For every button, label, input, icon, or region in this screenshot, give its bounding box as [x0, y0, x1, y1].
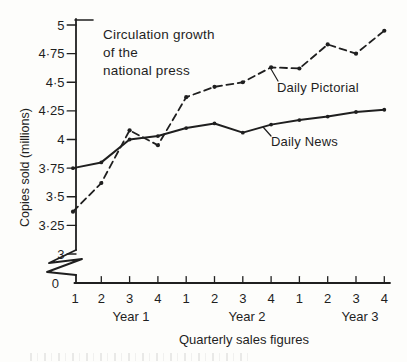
daily-pictorial-point — [156, 143, 160, 147]
daily-pictorial-series-label: Daily Pictorial — [277, 80, 359, 95]
y-tick-label: 5 — [57, 18, 64, 33]
cut-off-caption-fragment — [30, 353, 248, 361]
daily-pictorial-point — [326, 42, 330, 46]
y-axis-break-mark — [47, 250, 82, 275]
daily-pictorial-point — [297, 66, 301, 70]
y-origin-label: 0 — [52, 276, 59, 291]
y-tick-label: 3 — [57, 247, 64, 262]
daily-pictorial-point — [128, 128, 132, 132]
daily-news-point — [156, 134, 160, 138]
daily-news-point — [99, 161, 103, 165]
daily-news-point — [184, 126, 188, 130]
chart-title-line-1: Circulation growth — [103, 26, 215, 44]
scanned-chart-page: 54·754·54·2543·753·53·2530123412341234 C… — [0, 0, 407, 362]
y-tick-label: 3·5 — [46, 189, 65, 204]
year-1-label: Year 1 — [96, 309, 166, 324]
x-tick-label: 3 — [239, 291, 246, 306]
chart-title: Circulation growth of the national press — [103, 26, 215, 80]
x-tick-label: 3 — [126, 291, 133, 306]
x-tick-label: 2 — [324, 291, 331, 306]
chart-title-line-3: national press — [103, 62, 215, 80]
x-tick-label: 2 — [211, 291, 218, 306]
daily-pictorial-point — [212, 85, 216, 89]
daily-news-point — [269, 123, 273, 127]
year-3-label: Year 3 — [325, 309, 395, 324]
daily-news-series-label: Daily News — [271, 134, 338, 149]
daily-news-point — [241, 131, 245, 135]
chart-title-line-2: of the — [103, 44, 215, 62]
daily-news-point — [298, 118, 302, 122]
y-axis-title: Copies sold (millions) — [18, 97, 33, 239]
x-tick-label: 1 — [71, 291, 78, 306]
y-tick-label: 4 — [57, 132, 64, 147]
x-tick-label: 3 — [352, 291, 359, 306]
daily-pictorial-point — [71, 210, 75, 214]
daily-news-point — [326, 115, 330, 119]
x-tick-label: 1 — [296, 291, 303, 306]
y-tick-label: 3·25 — [38, 218, 64, 233]
year-2-label: Year 2 — [212, 309, 282, 324]
daily-pictorial-point — [184, 95, 188, 99]
x-tick-label: 2 — [98, 291, 105, 306]
y-tick-label: 4·5 — [46, 75, 65, 90]
x-tick-label: 4 — [154, 291, 161, 306]
daily-pictorial-point — [382, 29, 386, 33]
x-tick-label: 1 — [183, 291, 190, 306]
daily-news-point — [128, 138, 132, 142]
daily-pictorial-point — [354, 52, 358, 56]
x-tick-label: 4 — [267, 291, 274, 306]
daily-news-point — [213, 122, 217, 126]
y-tick-label: 4·75 — [38, 46, 64, 61]
daily-news-point — [71, 166, 75, 170]
daily-news-point — [382, 108, 386, 112]
daily-news-leader-line — [264, 128, 272, 137]
y-tick-label: 3·75 — [38, 161, 64, 176]
daily-news-point — [354, 110, 358, 114]
y-tick-label: 4·25 — [38, 103, 64, 118]
x-tick-label: 4 — [381, 291, 388, 306]
daily-pictorial-point — [241, 80, 245, 84]
daily-pictorial-point — [99, 181, 103, 185]
x-axis-title: Quarterly sales figures — [144, 332, 344, 347]
